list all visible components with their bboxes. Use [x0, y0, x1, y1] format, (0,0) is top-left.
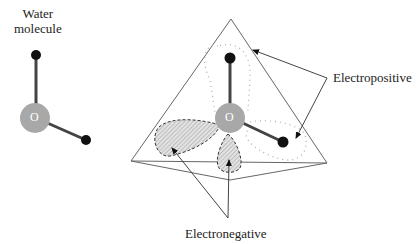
electropositive-label: Electropositive	[333, 70, 412, 85]
water-molecule-diagram	[0, 0, 417, 244]
label-line-2: molecule	[14, 21, 62, 36]
label-line-1: Water	[14, 6, 62, 21]
hydrogen-atom	[278, 137, 289, 148]
electropositive-region	[205, 45, 307, 161]
hydrogen-atom	[31, 50, 41, 60]
hydrogen-atom	[225, 53, 236, 64]
water-molecule-label: Water molecule	[14, 6, 62, 36]
hydrogen-atom	[81, 135, 91, 145]
oxygen-right-label: O	[225, 110, 234, 125]
electronegative-label: Electronegative	[185, 226, 267, 241]
right-water-molecule	[215, 53, 289, 148]
oxygen-left-label: O	[30, 110, 39, 125]
left-water-molecule	[20, 50, 91, 145]
